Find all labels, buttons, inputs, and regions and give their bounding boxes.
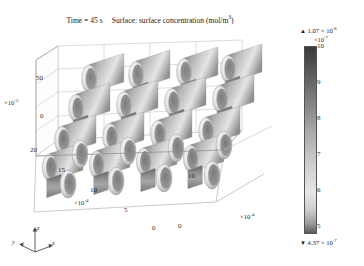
triangle-up-icon: ▲ (300, 28, 306, 34)
colorbar-tick-9: 9 (317, 78, 321, 86)
plot-root: Time = 45 s Surface: surface concentrati… (0, 0, 364, 266)
colorbar-tick-6: 6 (317, 186, 321, 194)
triad-label-y: y (12, 238, 15, 245)
colorbar-tick-5: 5 (317, 222, 321, 230)
colorbar-tick-labels: 10 9 8 7 6 5 (317, 46, 361, 232)
triad-label-z: z (37, 224, 39, 231)
colorbar-gradient (304, 46, 317, 234)
y-tick-10: 10 (90, 186, 97, 194)
time-label: Time = 45 s (66, 16, 102, 25)
colorbar-min-label: ▼ 4.37 × 10-7 (300, 238, 337, 246)
y-axis-multiplier: ×10-4 (74, 198, 88, 206)
colorbar-legend[interactable]: ▲ 1.07 × 10-6 ×10-7 10 9 8 7 6 5 ▼ 4.37 … (300, 26, 362, 252)
triad-label-x: x (52, 239, 55, 246)
y-tick-5: 5 (124, 206, 128, 214)
y-tick-0: 0 (152, 224, 156, 232)
colorbar-max-label: ▲ 1.07 × 10-6 (300, 26, 337, 34)
y-tick-20: 20 (30, 146, 37, 154)
x-axis-multiplier: ×10-4 (240, 212, 254, 220)
colorbar-tick-8: 8 (317, 114, 321, 122)
orientation-triad[interactable]: z y x (12, 224, 58, 258)
x-tick-10: 10 (188, 172, 195, 180)
y-tick-15: 15 (58, 166, 65, 174)
x-tick-0: 0 (178, 222, 182, 230)
scene-graphics (28, 34, 290, 234)
surface-label: Surface: surface concentration (mol/m3) (112, 14, 234, 25)
z-tick-0: 0 (40, 112, 44, 120)
triangle-down-icon: ▼ (300, 240, 306, 246)
scene-3d[interactable]: 50 ×10-5 0 20 15 10 ×10-4 5 0 10 0 ×10-4 (28, 34, 290, 234)
z-axis-multiplier: ×10-5 (4, 98, 18, 106)
colorbar-tick-7: 7 (317, 150, 321, 158)
z-tick-50: 50 (36, 74, 43, 82)
colorbar-tick-10: 10 (317, 42, 324, 50)
plot-title: Time = 45 s Surface: surface concentrati… (0, 14, 300, 25)
